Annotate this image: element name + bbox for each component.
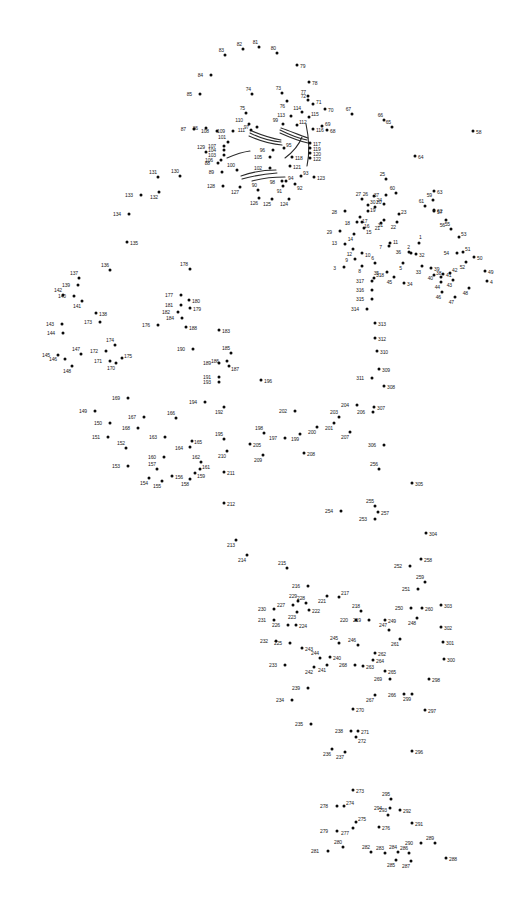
dot-211[interactable] [223, 471, 226, 474]
dot-316[interactable] [371, 289, 374, 292]
dot-71[interactable] [312, 103, 315, 106]
dot-281[interactable] [327, 850, 330, 853]
dot-113[interactable] [290, 115, 293, 118]
dot-9[interactable] [354, 258, 357, 261]
dot-22[interactable] [396, 221, 399, 224]
dot-256[interactable] [378, 468, 381, 471]
dot-202[interactable] [294, 410, 297, 413]
dot-227[interactable] [292, 604, 295, 607]
dot-268[interactable] [354, 664, 357, 667]
dot-143[interactable] [61, 323, 64, 326]
dot-77[interactable] [307, 95, 310, 98]
dot-254[interactable] [340, 510, 343, 513]
dot-178[interactable] [189, 268, 192, 271]
dot-258[interactable] [420, 558, 423, 561]
dot-252[interactable] [409, 565, 412, 568]
dot-216[interactable] [307, 585, 310, 588]
dot-239[interactable] [307, 687, 310, 690]
dot-171[interactable] [109, 360, 112, 363]
dot-174[interactable] [114, 344, 117, 347]
dot-46[interactable] [441, 291, 444, 294]
dot-301[interactable] [442, 641, 445, 644]
dot-128[interactable] [222, 185, 225, 188]
dot-294[interactable] [389, 807, 392, 810]
dot-90[interactable] [257, 189, 260, 192]
dot-185[interactable] [230, 352, 233, 355]
dot-309[interactable] [378, 368, 381, 371]
dot-224[interactable] [295, 624, 298, 627]
dot-150[interactable] [109, 422, 112, 425]
dot-107[interactable] [223, 145, 226, 148]
dot-296[interactable] [411, 750, 414, 753]
dot-189[interactable] [218, 362, 221, 365]
dot-61[interactable] [424, 205, 427, 208]
dot-243[interactable] [301, 647, 304, 650]
dot-169[interactable] [127, 397, 130, 400]
dot-195[interactable] [223, 438, 226, 441]
dot-276[interactable] [378, 826, 381, 829]
dot-45[interactable] [393, 276, 396, 279]
dot-20[interactable] [374, 206, 377, 209]
dot-262[interactable] [374, 652, 377, 655]
dot-10[interactable] [361, 252, 364, 255]
dot-292[interactable] [399, 809, 402, 812]
dot-81[interactable] [258, 46, 261, 49]
dot-18[interactable] [356, 221, 359, 224]
dot-43[interactable] [452, 279, 455, 282]
dot-54[interactable] [456, 252, 459, 255]
dot-188[interactable] [185, 326, 188, 329]
dot-204[interactable] [356, 404, 359, 407]
dot-208[interactable] [303, 452, 306, 455]
dot-283[interactable] [384, 852, 387, 855]
dot-48[interactable] [468, 287, 471, 290]
dot-310[interactable] [376, 350, 379, 353]
dot-173[interactable] [99, 321, 102, 324]
dot-72[interactable] [307, 99, 310, 102]
dot-121[interactable] [289, 165, 292, 168]
dot-89[interactable] [221, 171, 224, 174]
dot-314[interactable] [366, 308, 369, 311]
dot-228[interactable] [305, 602, 308, 605]
dot-37[interactable] [385, 194, 388, 197]
dot-11[interactable] [389, 242, 392, 245]
dot-147[interactable] [80, 353, 83, 356]
dot-122[interactable] [309, 157, 312, 160]
dot-270[interactable] [352, 708, 355, 711]
dot-190[interactable] [192, 348, 195, 351]
dot-269[interactable] [389, 678, 392, 681]
dot-82[interactable] [242, 48, 245, 51]
dot-225[interactable] [289, 642, 292, 645]
dot-163[interactable] [164, 436, 167, 439]
dot-129[interactable] [205, 151, 208, 154]
dot-220[interactable] [355, 619, 358, 622]
dot-114[interactable] [301, 111, 304, 114]
dot-27[interactable] [361, 198, 364, 201]
dot-315[interactable] [371, 298, 374, 301]
dot-186[interactable] [226, 360, 229, 363]
dot-176[interactable] [157, 324, 160, 327]
dot-6[interactable] [374, 262, 377, 265]
dot-172[interactable] [105, 350, 108, 353]
dot-191[interactable] [218, 376, 221, 379]
dot-177[interactable] [180, 294, 183, 297]
dot-91[interactable] [282, 185, 285, 188]
dot-244[interactable] [319, 657, 322, 660]
dot-149[interactable] [94, 410, 97, 413]
dot-66[interactable] [383, 119, 386, 122]
dot-179[interactable] [189, 307, 192, 310]
dot-133[interactable] [140, 194, 143, 197]
dot-168[interactable] [137, 427, 140, 430]
dot-217[interactable] [338, 596, 341, 599]
dot-298[interactable] [428, 678, 431, 681]
dot-234[interactable] [291, 699, 294, 702]
dot-282[interactable] [370, 851, 373, 854]
dot-271[interactable] [357, 730, 360, 733]
dot-193[interactable] [218, 381, 221, 384]
dot-212[interactable] [223, 502, 226, 505]
dot-153[interactable] [127, 465, 130, 468]
dot-233[interactable] [284, 664, 287, 667]
dot-74[interactable] [251, 93, 254, 96]
dot-257[interactable] [377, 511, 380, 514]
dot-259[interactable] [424, 581, 427, 584]
dot-240[interactable] [329, 656, 332, 659]
